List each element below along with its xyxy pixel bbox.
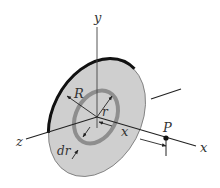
z-axis-label: z xyxy=(15,134,23,149)
distance-x-arrow-right xyxy=(140,139,166,146)
x-axis-behind xyxy=(151,89,181,99)
distance-x-label: x xyxy=(121,124,129,139)
x-axis-label: x xyxy=(200,140,208,155)
ring-width-label: dr xyxy=(57,144,72,158)
charged-disk-diagram: y z x R r dr x P xyxy=(0,0,220,188)
point-P xyxy=(163,135,168,140)
y-axis-label: y xyxy=(93,10,102,25)
disk-radius-label: R xyxy=(73,86,84,101)
point-P-label: P xyxy=(162,120,172,135)
